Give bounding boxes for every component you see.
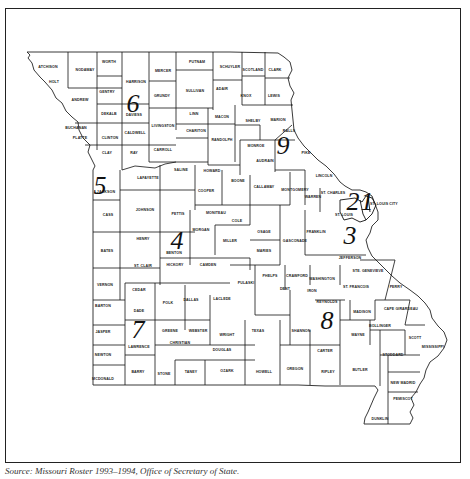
- county-label: LINCOLN: [316, 174, 333, 178]
- county-label: DEKALB: [101, 112, 117, 116]
- county-label: CLAY: [102, 151, 112, 155]
- county-label: LEWIS: [268, 94, 280, 98]
- county-label: COLE: [232, 219, 243, 223]
- county-label: OZARK: [220, 369, 234, 373]
- county-label: MISSISSIPPI: [422, 345, 444, 349]
- county-label: CEDAR: [132, 288, 146, 292]
- county-label: HARRISON: [126, 80, 146, 84]
- county-label: HENRY: [137, 237, 150, 241]
- county-label: SULLIVAN: [186, 89, 205, 93]
- county-label: DOUGLAS: [213, 348, 232, 352]
- county-label: RAY: [130, 151, 138, 155]
- county-label: MORGAN: [193, 228, 210, 232]
- county-label: BOONE: [231, 179, 245, 183]
- county-label: CAMDEN: [200, 263, 217, 267]
- district-number: 5: [94, 171, 107, 200]
- county-label: MONITEAU: [206, 211, 226, 215]
- missouri-district-map: ATCHISONNODAWAYHOLTWORTHHARRISONMERCERPU…: [0, 0, 470, 479]
- county-label: ST. CLAIR: [134, 264, 152, 268]
- county-label: LAFAYETTE: [137, 176, 159, 180]
- county-label: NEW MADRID: [391, 381, 416, 385]
- county-label: WRIGHT: [219, 333, 235, 337]
- county-label: BARTON: [95, 304, 111, 308]
- county-label: MILLER: [223, 239, 237, 243]
- county-label: PERRY: [390, 285, 403, 289]
- county-label: WEBSTER: [189, 329, 208, 333]
- district-number: 4: [171, 226, 184, 255]
- county-label: WASHINGTON: [309, 277, 335, 281]
- county-label: STONE: [158, 372, 171, 376]
- district-number: 8: [321, 306, 334, 335]
- county-label: ANDREW: [72, 98, 89, 102]
- district-number: 2: [347, 187, 360, 216]
- county-label: BARRY: [131, 370, 145, 374]
- county-label: ATCHISON: [38, 65, 58, 69]
- county-label: WARREN: [305, 195, 322, 199]
- county-label: PLATTE: [73, 136, 88, 140]
- county-label: PEMISCOT: [393, 397, 413, 401]
- county-label: SALINE: [174, 168, 188, 172]
- county-label: KNOX: [241, 94, 252, 98]
- county-label: CARROLL: [154, 148, 173, 152]
- county-label: RIPLEY: [321, 370, 335, 374]
- county-label: COOPER: [198, 189, 214, 193]
- county-label: CASS: [103, 213, 114, 217]
- county-label: STODDARD: [382, 353, 403, 357]
- county-label: JOHNSON: [136, 208, 155, 212]
- state-outline: [27, 52, 447, 424]
- county-label: WORTH: [102, 60, 116, 64]
- county-label: STE. GENEVIEVE: [352, 269, 384, 273]
- county-label: CALLAWAY: [254, 185, 275, 189]
- county-label: MONTGOMERY: [281, 188, 309, 192]
- county-label: ADAIR: [216, 87, 228, 91]
- county-label: MADISON: [353, 310, 371, 314]
- county-label: SCOTLAND: [243, 68, 264, 72]
- county-label: LINN: [190, 112, 199, 116]
- county-label: ST. CHARLES: [321, 191, 346, 195]
- county-label: CHRISTIAN: [170, 341, 191, 345]
- county-label: NEWTON: [95, 353, 112, 357]
- county-label: HOWELL: [256, 370, 273, 374]
- county-label: GENTRY: [99, 90, 115, 94]
- county-label: DADE: [134, 309, 145, 313]
- county-label: JASPER: [96, 330, 111, 334]
- county-label: ST. FRANCOIS: [343, 285, 370, 289]
- district-number: 3: [343, 221, 357, 250]
- county-label: BOLLINGER: [369, 324, 391, 328]
- county-label: AUDRAIN: [256, 159, 274, 163]
- district-number: 1: [361, 187, 374, 216]
- county-label: DENT: [280, 287, 291, 291]
- county-label: DUNKLIN: [372, 417, 389, 421]
- county-label: HOLT: [49, 80, 60, 84]
- county-label: HICKORY: [166, 263, 184, 267]
- county-label: CRAWFORD: [286, 274, 308, 278]
- county-label: BATES: [101, 249, 114, 253]
- county-label: PUTNAM: [189, 60, 205, 64]
- district-number: 6: [127, 89, 140, 118]
- county-label: LIVINGSTON: [152, 124, 175, 128]
- county-label: MACON: [215, 115, 229, 119]
- county-label: TEXAS: [252, 329, 265, 333]
- district-number: 7: [132, 315, 146, 344]
- county-label: MARIES: [257, 249, 272, 253]
- county-label: GRUNDY: [154, 94, 171, 98]
- county-label: OREGON: [287, 367, 304, 371]
- county-label: SHELBY: [245, 119, 261, 123]
- county-label: REYNOLDS: [317, 300, 338, 304]
- county-label: PHELPS: [263, 274, 278, 278]
- county-label: PETTIS: [171, 212, 185, 216]
- county-label: LAWRENCE: [128, 345, 150, 349]
- county-label: CLINTON: [102, 136, 119, 140]
- county-label: MERCER: [155, 69, 171, 73]
- county-label: VERNON: [97, 283, 113, 287]
- county-label: RANDOLPH: [211, 138, 232, 142]
- county-label: CAPE GIRARDEAU: [384, 307, 418, 311]
- county-label: ST. LOUIS CITY: [370, 202, 398, 206]
- county-label: BUTLER: [352, 368, 367, 372]
- county-label: DALLAS: [183, 298, 199, 302]
- county-label: MONROE: [248, 144, 265, 148]
- county-label: FRANKLIN: [306, 230, 325, 234]
- county-label: PULASKI: [238, 281, 254, 285]
- county-label: SCOTT: [409, 336, 422, 340]
- county-label: SCHUYLER: [220, 65, 241, 69]
